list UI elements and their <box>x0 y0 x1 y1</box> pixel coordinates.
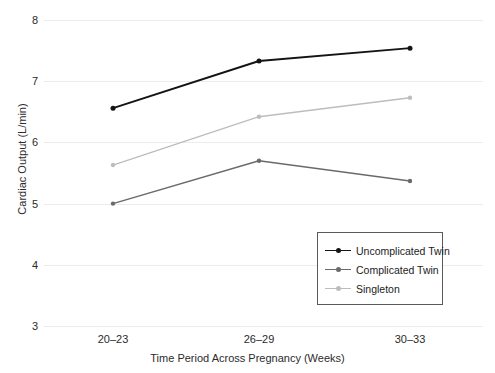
data-point-marker <box>257 59 262 64</box>
legend-line-marker-icon <box>325 284 351 294</box>
data-point-marker <box>257 159 261 163</box>
series-line <box>113 48 410 108</box>
legend: Uncomplicated Twin Complicated Twin Sing… <box>317 232 443 305</box>
gridline-3 <box>44 326 483 327</box>
x-axis-tick-label-1: 26–29 <box>224 334 294 345</box>
legend-item-label: Uncomplicated Twin <box>356 245 450 257</box>
y-axis-tick-label-8: 8 <box>8 15 38 26</box>
series-line <box>113 161 410 204</box>
legend-item-label: Singleton <box>356 283 400 295</box>
data-point-marker <box>408 46 413 51</box>
legend-line-marker-icon <box>325 265 351 275</box>
series-line <box>113 98 410 165</box>
cardiac-output-line-chart: 8 7 6 5 4 3 Cardiac Output (L/min) 20–23… <box>0 0 495 373</box>
x-axis-tick-label-2: 30–33 <box>375 334 445 345</box>
data-point-marker <box>111 163 115 167</box>
data-point-marker <box>408 96 412 100</box>
y-axis-tick-label-3: 3 <box>8 321 38 332</box>
legend-item-label: Complicated Twin <box>356 264 439 276</box>
legend-item-complicated-twin[interactable]: Complicated Twin <box>318 260 442 279</box>
legend-item-singleton[interactable]: Singleton <box>318 279 442 298</box>
legend-line-marker-icon <box>325 246 351 256</box>
x-axis-title: Time Period Across Pregnancy (Weeks) <box>0 352 495 364</box>
x-axis-tick-label-0: 20–23 <box>78 334 148 345</box>
legend-item-uncomplicated-twin[interactable]: Uncomplicated Twin <box>318 241 442 260</box>
y-axis-title: Cardiac Output (L/min) <box>16 69 28 249</box>
y-axis-tick-label-4: 4 <box>8 260 38 271</box>
data-point-marker <box>111 201 115 205</box>
data-point-marker <box>257 114 261 118</box>
data-point-marker <box>408 179 412 183</box>
data-point-marker <box>111 106 116 111</box>
